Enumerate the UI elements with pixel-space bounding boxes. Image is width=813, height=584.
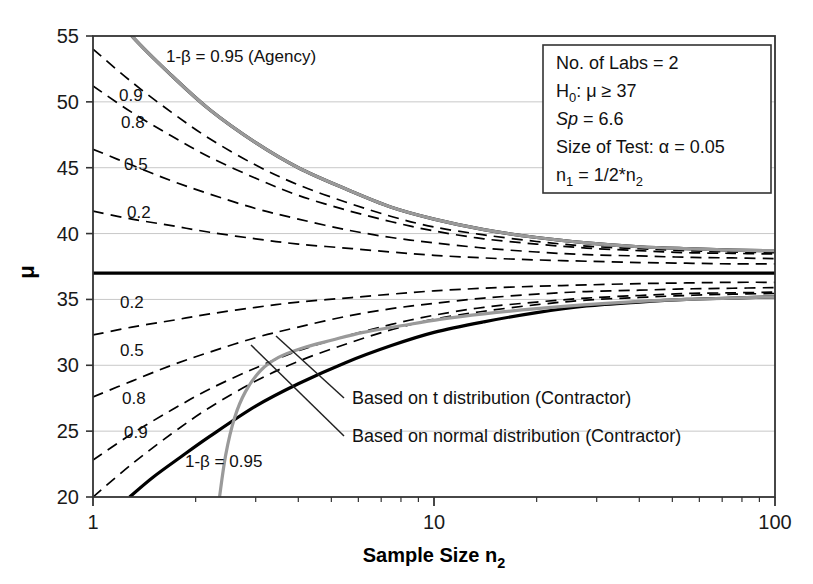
label-lower-08: 0.8 <box>122 389 146 408</box>
xtick-label-100: 100 <box>758 511 791 533</box>
y-axis-title: μ <box>14 265 39 278</box>
ytick-label-40: 40 <box>57 223 79 245</box>
power-curve-chart: 2025303540455055 110100 1-β = 0.95 (Agen… <box>0 0 813 584</box>
legend-line-sp: Sp = 6.6 <box>556 109 624 129</box>
label-lower-09: 0.9 <box>124 423 148 442</box>
ytick-label-30: 30 <box>57 354 79 376</box>
ytick-label-25: 25 <box>57 420 79 442</box>
ytick-label-50: 50 <box>57 91 79 113</box>
label-upper-05: 0.5 <box>124 155 148 174</box>
annotation-t-distribution-text: Based on t distribution (Contractor) <box>352 388 631 408</box>
label-upper-02: 0.2 <box>127 203 151 222</box>
annotation-normal-distribution-text: Based on normal distribution (Contractor… <box>352 426 681 446</box>
xtick-label-10: 10 <box>423 511 445 533</box>
legend-line-labs: No. of Labs = 2 <box>556 53 679 73</box>
label-upper-08: 0.8 <box>121 113 145 132</box>
legend-line-alpha: Size of Test: α = 0.05 <box>556 137 725 157</box>
legend-box: No. of Labs = 2 H0: μ ≥ 37 Sp = 6.6 Size… <box>543 45 771 193</box>
ytick-label-45: 45 <box>57 157 79 179</box>
chart-page: 2025303540455055 110100 1-β = 0.95 (Agen… <box>0 0 813 584</box>
ytick-label-35: 35 <box>57 288 79 310</box>
label-upper-09: 0.9 <box>119 86 143 105</box>
label-lower-05: 0.5 <box>120 341 144 360</box>
xtick-label-1: 1 <box>87 511 98 533</box>
ytick-label-20: 20 <box>57 486 79 508</box>
label-lower-095: 1-β = 0.95 <box>185 452 262 471</box>
label-upper-095-agency: 1-β = 0.95 (Agency) <box>166 47 316 66</box>
label-lower-02: 0.2 <box>120 293 144 312</box>
ytick-label-55: 55 <box>57 25 79 47</box>
